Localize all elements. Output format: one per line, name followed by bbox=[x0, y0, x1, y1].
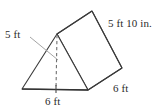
depth-length-label: 6 ft bbox=[113, 82, 128, 94]
slant-length-label: 5 ft 10 in. bbox=[108, 17, 152, 29]
base-length-label: 6 ft bbox=[45, 95, 60, 107]
triangle-base-edge bbox=[22, 89, 88, 90]
height-label: 5 ft bbox=[5, 28, 20, 40]
triangular-prism-figure: 5 ft 5 ft 10 in. 6 ft 6 ft bbox=[0, 0, 164, 110]
